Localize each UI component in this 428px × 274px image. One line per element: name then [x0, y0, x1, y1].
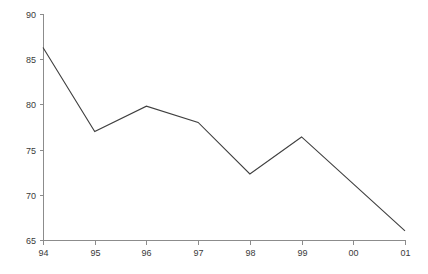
chart-axes	[44, 14, 406, 241]
x-tick-label: 97	[193, 248, 203, 258]
x-axis-tick-labels: 9495969798990001	[38, 248, 410, 258]
data-series	[43, 47, 405, 231]
x-tick-label: 98	[245, 248, 255, 258]
x-tick-label: 99	[297, 248, 307, 258]
line-chart: 657075808590 9495969798990001	[0, 0, 428, 274]
x-tick-label: 01	[400, 248, 410, 258]
y-tick-label: 80	[26, 100, 36, 110]
y-tick-label: 70	[26, 191, 36, 201]
x-tick-label: 00	[348, 248, 358, 258]
y-tick-label: 75	[26, 146, 36, 156]
chart-canvas: 657075808590 9495969798990001	[0, 0, 428, 274]
tick-marks	[40, 15, 406, 245]
y-axis-tick-labels: 657075808590	[26, 10, 36, 246]
y-tick-label: 90	[26, 10, 36, 20]
series-line	[43, 47, 405, 231]
y-tick-label: 65	[26, 236, 36, 246]
x-tick-label: 96	[141, 248, 151, 258]
x-tick-label: 94	[38, 248, 48, 258]
x-tick-label: 95	[90, 248, 100, 258]
y-tick-label: 85	[26, 55, 36, 65]
